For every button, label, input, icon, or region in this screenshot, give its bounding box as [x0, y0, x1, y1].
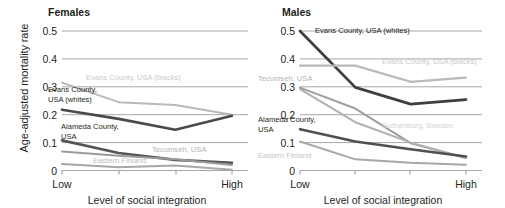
- series-annotation-evans_whites: Evans County,USA (whites): [48, 85, 97, 104]
- females-svg: 00.10.20.30.40.5FemalesLowHighLevel of s…: [0, 0, 252, 208]
- series-line: [300, 31, 466, 104]
- series-annotation-evans_blacks: Evans County, USA (blacks): [86, 73, 181, 82]
- series-annotation-alameda: Alameda County,USA: [61, 122, 119, 141]
- chart-panel-females: 00.10.20.30.40.5FemalesLowHighLevel of s…: [0, 0, 252, 208]
- x-axis-label: Level of social integration: [324, 194, 443, 206]
- y-tick-label: 0.5: [42, 25, 57, 37]
- series-annotation-tecumseh: Tecumseh, USA: [152, 145, 207, 154]
- x-tick-label-high: High: [221, 178, 243, 190]
- y-tick-label: 0: [289, 165, 295, 177]
- figure-root: Age-adjusted mortality rate 00.10.20.30.…: [0, 0, 505, 208]
- y-tick-label: 0.5: [280, 25, 295, 37]
- series-line: [300, 66, 466, 82]
- males-svg: 00.10.20.30.40.5MalesLowHighLevel of soc…: [252, 0, 505, 208]
- series-annotation-gothenburg: Gothenburg, Sweden: [382, 121, 454, 130]
- series-annotation-evans_blacks: Evans County, USA (blacks): [382, 57, 477, 66]
- series-annotation-eastern_finland: Eastern Finland: [258, 151, 311, 160]
- series-annotation-eastern_finland: Eastern Finland: [93, 156, 146, 165]
- y-tick-label: 0.4: [42, 53, 57, 65]
- x-axis-label: Level of social integration: [88, 194, 207, 206]
- y-tick-label: 0.2: [42, 109, 57, 121]
- series-line: [62, 140, 232, 162]
- y-tick-label: 0.4: [280, 53, 295, 65]
- y-tick-label: 0: [51, 165, 57, 177]
- panel-title: Females: [48, 6, 90, 18]
- x-tick-label-low: Low: [52, 178, 72, 190]
- panel-title: Males: [282, 6, 311, 18]
- series-line: [62, 164, 232, 170]
- series-annotation-evans_whites: Evans County, USA (whites): [315, 26, 410, 35]
- series-annotation-tecumseh: Tecumseh, USA: [258, 74, 313, 83]
- chart-panel-males: 00.10.20.30.40.5MalesLowHighLevel of soc…: [252, 0, 505, 208]
- x-tick-label-low: Low: [290, 178, 310, 190]
- y-tick-label: 0.1: [280, 137, 295, 149]
- series-line: [62, 152, 232, 165]
- y-tick-label: 0.1: [42, 137, 57, 149]
- x-tick-label-high: High: [455, 178, 477, 190]
